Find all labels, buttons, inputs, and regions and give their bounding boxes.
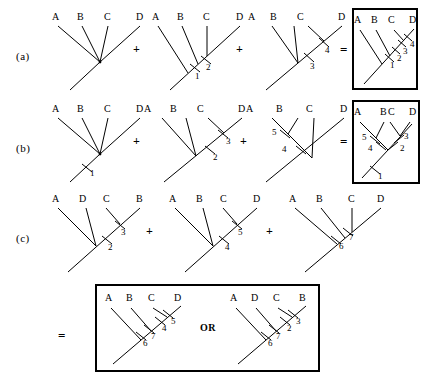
- branch-number: 2: [108, 243, 113, 252]
- leaf-label: C: [203, 12, 210, 22]
- leaf-label: C: [148, 293, 155, 303]
- leaf-label: B: [77, 104, 84, 114]
- leaf-label: B: [77, 12, 84, 22]
- leaf-label: B: [276, 104, 283, 114]
- branch-number: 1: [378, 172, 383, 181]
- leaf-label: D: [236, 12, 243, 22]
- leaf-label: D: [409, 15, 416, 25]
- branch-number: 1: [90, 169, 95, 178]
- leaf-label: A: [52, 104, 59, 114]
- branch-number: 5: [272, 128, 277, 137]
- branch-number: 5: [171, 317, 176, 326]
- leaf-label: C: [104, 104, 111, 114]
- leaf-label: B: [136, 194, 143, 204]
- plus-operator: +: [236, 42, 243, 57]
- branch-number: 4: [225, 243, 230, 252]
- leaf-label: A: [354, 15, 361, 25]
- branch-number: 2: [213, 153, 218, 162]
- branch-number: 7: [151, 332, 156, 341]
- leaf-label: A: [144, 104, 151, 114]
- leaf-label: B: [126, 293, 133, 303]
- leaf-label: A: [105, 293, 112, 303]
- leaf-label: A: [152, 12, 159, 22]
- leaf-label: C: [220, 194, 227, 204]
- leaf-label: B: [177, 12, 184, 22]
- leaf-label: B: [170, 104, 177, 114]
- leaf-label: C: [103, 194, 110, 204]
- row-label-c: (c): [16, 232, 30, 244]
- result-tree-right: A D C B 6 7 2 3: [228, 292, 314, 368]
- leaf-label: C: [297, 12, 304, 22]
- branch-number: 2: [287, 324, 292, 333]
- equals-operator: =: [340, 42, 347, 58]
- leaf-label: C: [197, 104, 204, 114]
- leaf-label: D: [136, 104, 143, 114]
- branch-number: 4: [325, 46, 330, 55]
- leaf-label: A: [246, 104, 253, 114]
- result-tree-left: A B C D 6 7 4 5: [103, 292, 189, 368]
- branch-number: 2: [206, 63, 211, 72]
- leaf-label: D: [251, 293, 258, 303]
- leaf-label: B: [270, 12, 277, 22]
- branch-number: 2: [400, 144, 405, 153]
- branch-number: 7: [349, 233, 354, 242]
- plus-operator: +: [266, 224, 273, 239]
- leaf-label: A: [354, 107, 361, 117]
- leaf-label: A: [248, 12, 255, 22]
- row-c-tree-2: A B C D 4 5: [165, 196, 275, 274]
- plus-operator: +: [133, 42, 140, 57]
- row-b-tree-3: A B C D 4 5: [252, 106, 352, 184]
- leaf-label: B: [380, 107, 387, 117]
- leaf-label: C: [388, 107, 395, 117]
- row-a-result: A B C D 1 2 3 4: [354, 14, 418, 88]
- branch-number: 2: [397, 54, 402, 63]
- equals-operator: =: [340, 134, 347, 150]
- leaf-label: A: [169, 194, 176, 204]
- branch-number: 1: [390, 61, 395, 70]
- row-label-b: (b): [16, 142, 30, 154]
- branch-number: 3: [310, 62, 315, 71]
- plus-operator: +: [146, 224, 153, 239]
- leaf-label: C: [306, 104, 313, 114]
- leaf-label: D: [238, 104, 245, 114]
- row-a-tree-2: A B C D 1 2: [148, 14, 248, 92]
- branch-number: 3: [226, 137, 231, 146]
- branch-number: 4: [368, 144, 373, 153]
- branch-number: 5: [362, 133, 367, 142]
- leaf-label: C: [104, 12, 111, 22]
- branch-number: 7: [276, 332, 281, 341]
- plus-operator: +: [240, 134, 247, 149]
- branch-number: 4: [282, 145, 287, 154]
- leaf-label: D: [377, 194, 384, 204]
- row-label-a: (a): [16, 50, 30, 62]
- row-a-tree-3: A B C D 3 4: [250, 14, 350, 92]
- leaf-label: B: [299, 293, 306, 303]
- leaf-label: D: [340, 104, 347, 114]
- leaf-label: B: [371, 15, 378, 25]
- row-c-tree-3: A B C D 6 7: [285, 196, 395, 274]
- leaf-label: B: [316, 194, 323, 204]
- branch-number: 4: [410, 40, 415, 49]
- branch-number: 6: [339, 242, 344, 251]
- leaf-label: D: [79, 194, 86, 204]
- branch-number: 3: [296, 317, 301, 326]
- leaf-label: D: [253, 194, 260, 204]
- leaf-label: C: [273, 293, 280, 303]
- branch-number: 3: [121, 228, 126, 237]
- branch-number: 6: [268, 339, 273, 348]
- figure-canvas: (a) A B C D +: [0, 0, 424, 382]
- leaf-label: D: [338, 12, 345, 22]
- leaf-label: C: [388, 15, 395, 25]
- branch-number: 3: [403, 47, 408, 56]
- leaf-label: A: [52, 12, 59, 22]
- leaf-label: A: [289, 194, 296, 204]
- row-b-result: A B C D 1 2 3 4 5: [354, 106, 420, 182]
- row-c-tree-1: A D C B 2 3: [48, 196, 158, 274]
- branch-number: 3: [404, 132, 409, 141]
- leaf-label: A: [230, 293, 237, 303]
- leaf-label: A: [52, 194, 59, 204]
- branch-number: 6: [143, 339, 148, 348]
- leaf-label: D: [136, 12, 143, 22]
- leaf-label: C: [348, 194, 355, 204]
- row-b-tree-2: A B C D 2 3: [150, 106, 250, 184]
